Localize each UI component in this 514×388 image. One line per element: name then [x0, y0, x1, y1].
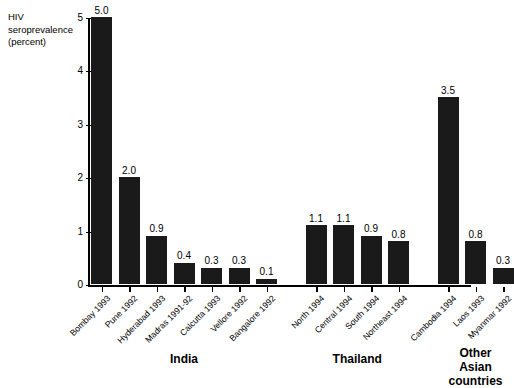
x-tick-mark: [448, 287, 450, 292]
plot-area: 012345 5.02.00.90.40.30.30.11.11.10.90.8…: [88, 18, 471, 286]
bar: 0.3: [493, 268, 514, 284]
bar-value-label: 1.1: [337, 214, 351, 224]
y-tick-label: 2: [77, 173, 83, 183]
y-tick-label: 0: [77, 280, 83, 290]
bar: 0.9: [361, 236, 382, 284]
x-axis-line: [88, 285, 471, 287]
x-tick-mark: [102, 287, 104, 292]
bar: 1.1: [333, 225, 354, 284]
x-tick-mark: [129, 287, 131, 292]
bar-value-label: 3.5: [441, 86, 455, 96]
group-heading-thailand: Thailand: [333, 352, 382, 366]
y-tick-label: 4: [77, 66, 83, 76]
x-category-label: Cambodia 1994: [409, 294, 458, 343]
y-tick-label: 1: [77, 227, 83, 237]
bar-value-label: 5.0: [95, 6, 109, 16]
bar: 0.8: [465, 241, 486, 284]
y-tick-mark: [86, 285, 92, 286]
bar: 1.1: [306, 225, 327, 284]
x-tick-mark: [344, 287, 346, 292]
x-tick-mark: [184, 287, 186, 292]
bar: 2.0: [119, 177, 140, 284]
x-tick-mark: [503, 287, 505, 292]
bar: 3.5: [438, 97, 459, 284]
bar: 0.3: [201, 268, 222, 284]
bar-value-label: 2.0: [122, 166, 136, 176]
bar-value-label: 0.3: [232, 256, 246, 266]
bar: 0.8: [388, 241, 409, 284]
group-heading-india: India: [170, 352, 198, 366]
bar-value-label: 0.8: [392, 230, 406, 240]
group-heading-other-asian: Other Asian countries: [448, 346, 502, 388]
y-tick-label: 5: [77, 13, 83, 23]
bar: 0.1: [256, 279, 277, 284]
x-tick-mark: [316, 287, 318, 292]
x-tick-mark: [399, 287, 401, 292]
bar: 0.4: [174, 263, 195, 284]
x-tick-mark: [476, 287, 478, 292]
bar: 5.0: [91, 17, 112, 284]
bar-value-label: 0.3: [496, 256, 510, 266]
y-axis-line: [88, 18, 90, 286]
y-axis-title: HIV seroprevalence (percent): [8, 11, 84, 49]
bar-value-label: 0.9: [150, 224, 164, 234]
x-tick-mark: [267, 287, 269, 292]
y-tick-label: 3: [77, 120, 83, 130]
bar-value-label: 0.3: [205, 256, 219, 266]
bar: 0.9: [146, 236, 167, 284]
x-tick-mark: [371, 287, 373, 292]
bar: 0.3: [229, 268, 250, 284]
bar-value-label: 0.9: [364, 224, 378, 234]
x-tick-mark: [239, 287, 241, 292]
bar-value-label: 0.4: [177, 251, 191, 261]
x-tick-mark: [157, 287, 159, 292]
bar-value-label: 0.1: [260, 267, 274, 277]
x-tick-mark: [212, 287, 214, 292]
bar-value-label: 0.8: [469, 230, 483, 240]
bar-value-label: 1.1: [309, 214, 323, 224]
x-category-label: Bombay 1993: [68, 294, 112, 338]
